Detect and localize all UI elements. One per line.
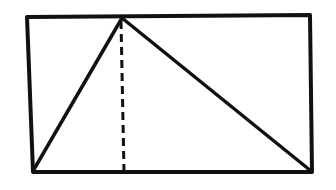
geometry-diagram: [0, 0, 336, 190]
background: [0, 0, 336, 190]
